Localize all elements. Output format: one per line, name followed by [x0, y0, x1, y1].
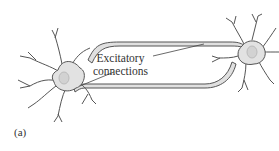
excitatory-connections-label: Excitatory connections [93, 52, 148, 78]
panel-label: (a) [14, 126, 26, 138]
label-line-2: connections [93, 65, 148, 78]
left-neuron [18, 28, 96, 122]
label-line-1: Excitatory [93, 52, 148, 65]
